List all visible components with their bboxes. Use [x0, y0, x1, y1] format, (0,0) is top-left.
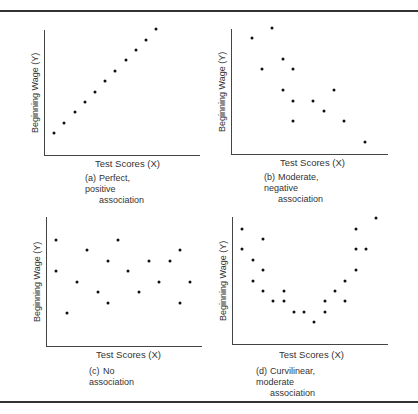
panel-caption: (b)Moderate, negativeassociation [264, 172, 323, 205]
data-point [251, 258, 254, 261]
data-point [281, 57, 284, 60]
data-point [292, 310, 295, 313]
data-point [291, 120, 294, 123]
top-rule [0, 10, 418, 12]
y-axis [44, 30, 45, 155]
data-point [260, 68, 263, 71]
caption-line-2: association [264, 194, 323, 205]
data-point [124, 59, 127, 62]
x-axis [46, 346, 202, 347]
data-point [375, 217, 378, 220]
data-point [334, 290, 337, 293]
data-point [312, 99, 315, 102]
data-point [106, 259, 109, 262]
data-point [251, 279, 254, 282]
data-point [323, 300, 326, 303]
panel-tag: (c) [89, 366, 103, 377]
x-axis [232, 344, 388, 345]
x-axis-label: Test Scores (X) [279, 349, 344, 360]
caption-line-2: association [85, 195, 144, 206]
y-axis-label: Beginning Wage (Y) [217, 51, 227, 131]
panel-tag: (a) [85, 173, 99, 184]
data-point [137, 291, 140, 294]
data-point [168, 259, 171, 262]
data-point [75, 280, 78, 283]
data-point [250, 37, 253, 40]
data-point [364, 248, 367, 251]
data-point [155, 28, 158, 31]
panel-caption: (a)Perfect, positiveassociation [85, 173, 144, 206]
data-point [117, 238, 120, 241]
x-axis-label: Test Scores (X) [280, 157, 345, 168]
panel-tag: (d) [256, 366, 270, 377]
data-point [127, 270, 130, 273]
x-axis-label: Test Scores (X) [96, 349, 161, 360]
data-point [83, 101, 86, 104]
data-point [303, 310, 306, 313]
data-point [53, 132, 56, 135]
data-point [178, 249, 181, 252]
data-point [241, 248, 244, 251]
x-axis-label: Test Scores (X) [95, 158, 160, 169]
data-point [363, 141, 366, 144]
caption-line-2: association [256, 388, 315, 399]
data-point [282, 300, 285, 303]
y-axis-label: Beginning Wage (Y) [30, 52, 40, 132]
data-point [65, 312, 68, 315]
panel-tag: (b) [264, 172, 278, 183]
data-point [281, 89, 284, 92]
data-point [343, 120, 346, 123]
bottom-rule [0, 401, 418, 403]
data-point [344, 279, 347, 282]
data-point [261, 238, 264, 241]
data-point [189, 280, 192, 283]
data-point [55, 238, 58, 241]
data-point [106, 301, 109, 304]
data-point [241, 227, 244, 230]
data-point [73, 111, 76, 114]
data-point [282, 290, 285, 293]
x-axis [231, 154, 388, 155]
data-point [94, 90, 97, 93]
data-point [134, 49, 137, 52]
data-point [291, 68, 294, 71]
data-point [261, 269, 264, 272]
data-point [145, 38, 148, 41]
data-point [86, 249, 89, 252]
y-axis-label: Beginning Wage (Y) [32, 241, 42, 321]
data-point [158, 280, 161, 283]
data-point [291, 99, 294, 102]
x-axis [44, 155, 200, 156]
data-point [114, 69, 117, 72]
data-point [354, 248, 357, 251]
data-point [148, 259, 151, 262]
data-point [323, 310, 326, 313]
data-point [313, 321, 316, 324]
y-axis-label: Beginning Wage (Y) [218, 240, 228, 320]
data-point [104, 80, 107, 83]
panel-caption: (d)Curvilinear, moderateassociation [256, 366, 315, 399]
data-point [96, 291, 99, 294]
data-point [354, 227, 357, 230]
data-point [63, 121, 66, 124]
data-point [178, 301, 181, 304]
y-axis [46, 217, 47, 346]
data-point [261, 290, 264, 293]
y-axis [232, 217, 233, 344]
data-point [271, 26, 274, 29]
data-point [322, 109, 325, 112]
y-axis [231, 29, 232, 154]
data-point [55, 270, 58, 273]
data-point [333, 89, 336, 92]
panel-caption: (c)No association [89, 366, 134, 388]
data-point [272, 300, 275, 303]
data-point [354, 269, 357, 272]
data-point [344, 300, 347, 303]
